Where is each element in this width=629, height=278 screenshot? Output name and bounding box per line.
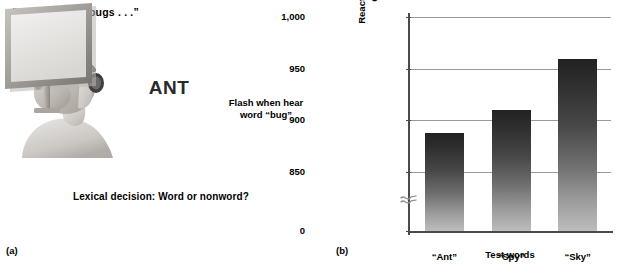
x-axis-line bbox=[408, 231, 613, 233]
y-tick-label-900: 900 bbox=[289, 114, 305, 125]
y-tick-mark-950 bbox=[406, 69, 411, 70]
chart-plot-area: 08509009501,000“Ant”“Spy”“Sky” bbox=[411, 17, 611, 231]
figure-container: “. . . and other bugs . . .” bbox=[0, 0, 629, 278]
panel-label-a: (a) bbox=[6, 245, 18, 256]
y-tick-mark-0 bbox=[406, 231, 411, 232]
lexical-decision-caption: Lexical decision: Word or nonword? bbox=[36, 191, 286, 202]
y-tick-label-950: 950 bbox=[289, 63, 305, 74]
screen-word-text: ANT bbox=[119, 30, 219, 145]
panel-a-illustration: “. . . and other bugs . . .” bbox=[0, 0, 330, 278]
bar-2 bbox=[558, 59, 597, 231]
bar-0 bbox=[425, 133, 464, 231]
x-axis-title: Test words bbox=[440, 249, 580, 260]
stimulus-screen bbox=[0, 0, 100, 115]
y-tick-label-850: 850 bbox=[289, 166, 305, 177]
y-axis-title-line-1: Reaction time to lexical bbox=[356, 0, 368, 46]
y-tick-mark-900 bbox=[406, 120, 411, 121]
y-axis-title-line-2: decision (ms) bbox=[368, 0, 380, 46]
panel-b-bar-chart: Reaction time to lexicaldecision (ms) 08… bbox=[330, 0, 629, 278]
y-tick-label-0: 0 bbox=[300, 225, 305, 236]
y-tick-mark-850 bbox=[406, 172, 411, 173]
panel-label-b: (b) bbox=[336, 245, 348, 256]
gridline-1000 bbox=[411, 17, 611, 18]
bar-1 bbox=[492, 110, 531, 231]
y-tick-label-1000: 1,000 bbox=[281, 11, 305, 22]
flash-note-line-1: Flash when hear bbox=[216, 97, 316, 109]
y-axis-title: Reaction time to lexicaldecision (ms) bbox=[356, 0, 370, 46]
y-tick-mark-1000 bbox=[406, 17, 411, 18]
